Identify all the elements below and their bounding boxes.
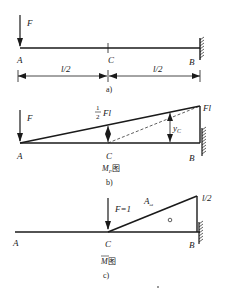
- mid-value-fraction-denominator: 2: [96, 113, 100, 121]
- force-arrowhead-icon: [17, 133, 23, 142]
- dimension-label-right: l/2: [153, 64, 163, 74]
- diagram-title: MP图: [101, 164, 120, 174]
- yc-label-sub: C: [177, 128, 182, 134]
- unit-force-label: F=1: [114, 204, 131, 214]
- fixed-support-icon: [199, 221, 203, 244]
- mid-value-label: Fl: [102, 108, 111, 118]
- point-b-label: B: [189, 153, 195, 163]
- end-value-label: l/2: [202, 193, 212, 203]
- diagram-title-suffix: 图: [108, 257, 116, 266]
- unit-force-arrowhead-icon: [105, 221, 111, 230]
- diagram-title-suffix: 图: [112, 164, 120, 173]
- point-a-label: A: [16, 151, 23, 161]
- panel-c: F=1 Aω l/2 A C B M图 c): [12, 193, 212, 288]
- force-label: F: [26, 18, 33, 28]
- point-a-label: A: [12, 238, 19, 248]
- point-c-label: C: [108, 55, 115, 65]
- point-c-label: C: [105, 239, 112, 249]
- point-b-label: B: [189, 57, 195, 67]
- yc-label: yC: [172, 123, 182, 134]
- fixed-support-icon: [202, 127, 206, 156]
- force-label: F: [26, 113, 33, 123]
- speck: [157, 286, 159, 288]
- force-arrowhead-icon: [17, 38, 23, 47]
- caption-a: a): [106, 85, 113, 94]
- centroid-icon: [168, 218, 172, 222]
- area-label-sub: ω: [150, 202, 154, 207]
- fixed-support-icon: [200, 37, 204, 60]
- caption-b: b): [106, 178, 113, 187]
- panel-a: F A C B l/2 l/2 a): [16, 15, 204, 94]
- structural-mechanics-figure: F A C B l/2 l/2 a): [0, 0, 227, 290]
- point-a-label: A: [16, 55, 23, 65]
- dimension-line: [18, 70, 200, 82]
- caption-c: c): [103, 271, 110, 280]
- point-c-label: C: [106, 151, 113, 161]
- panel-b: F 1 2 Fl Fl yC A C B MP图 b): [16, 103, 211, 187]
- mid-value-fraction-numerator: 1: [96, 104, 100, 112]
- diagram-title: M图: [100, 257, 116, 266]
- dashed-reference-line: [108, 106, 200, 143]
- point-b-label: B: [189, 240, 195, 250]
- area-label: Aω: [143, 196, 154, 207]
- dimension-label-left: l/2: [61, 64, 71, 74]
- end-value-label: Fl: [202, 103, 211, 113]
